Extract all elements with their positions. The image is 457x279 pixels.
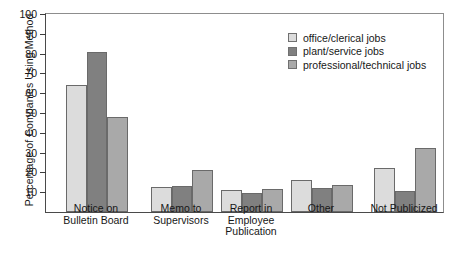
legend-swatch bbox=[288, 33, 297, 42]
y-axis-tick-label: 40 bbox=[25, 127, 37, 139]
bar bbox=[87, 52, 108, 212]
y-axis-tick bbox=[40, 14, 46, 15]
legend-label: office/clerical jobs bbox=[303, 32, 386, 44]
legend-item: office/clerical jobs bbox=[288, 31, 426, 45]
legend-item: professional/technical jobs bbox=[288, 58, 426, 72]
y-axis-tick-label: 10 bbox=[25, 186, 37, 198]
category-label-line: Not Publicized bbox=[351, 203, 457, 215]
y-axis-tick bbox=[40, 34, 46, 35]
y-axis-tick bbox=[40, 113, 46, 114]
legend-item: plant/service jobs bbox=[288, 45, 426, 59]
bar bbox=[107, 117, 128, 212]
y-axis-tick-label: 80 bbox=[25, 48, 37, 60]
legend-label: plant/service jobs bbox=[303, 45, 384, 57]
x-axis-category-label: Not Publicized bbox=[351, 203, 457, 215]
y-axis-tick bbox=[40, 54, 46, 55]
y-axis-tick-label: 100 bbox=[19, 8, 37, 20]
chart-legend: office/clerical jobsplant/service jobspr… bbox=[288, 31, 426, 72]
y-axis-tick bbox=[40, 73, 46, 74]
y-axis-tick bbox=[40, 93, 46, 94]
bar-chart-figure: Percentage of Companies Using Method 102… bbox=[0, 0, 457, 279]
category-label-line: Publication bbox=[198, 226, 304, 238]
y-axis-tick-label: 60 bbox=[25, 87, 37, 99]
legend-label: professional/technical jobs bbox=[303, 59, 426, 71]
legend-swatch bbox=[288, 47, 297, 56]
y-axis-tick-label: 70 bbox=[25, 67, 37, 79]
y-axis-tick-label: 50 bbox=[25, 107, 37, 119]
y-axis-tick bbox=[40, 153, 46, 154]
legend-swatch bbox=[288, 60, 297, 69]
y-axis-tick bbox=[40, 192, 46, 193]
bar bbox=[66, 85, 87, 212]
y-axis-tick-label: 30 bbox=[25, 147, 37, 159]
y-axis-tick-label: 20 bbox=[25, 166, 37, 178]
y-axis-tick bbox=[40, 133, 46, 134]
y-axis-tick bbox=[40, 172, 46, 173]
y-axis-tick-label: 90 bbox=[25, 28, 37, 40]
